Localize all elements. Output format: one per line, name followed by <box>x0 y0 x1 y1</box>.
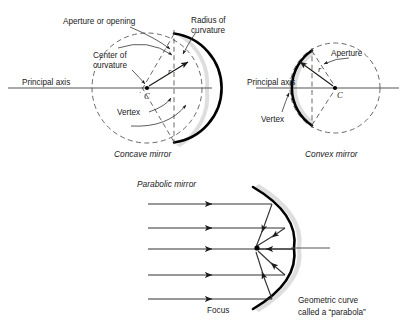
convex-mirror-panel: C r Aperture Vertex Principal axis Conve… <box>247 43 399 159</box>
convex-aperture-label: Aperture <box>331 49 363 58</box>
concave-radius-symbol: r <box>168 66 172 76</box>
reflected-ray-5 <box>262 272 272 299</box>
focus-point-dot <box>254 245 259 250</box>
concave-vertex-label: Vertex <box>117 108 140 117</box>
concave-center-label-line2: curvature <box>93 61 128 70</box>
concave-aperture-label: Aperture or opening <box>63 17 136 26</box>
concave-principal-axis-label: Principal axis <box>22 78 70 87</box>
reflected-ray-2 <box>272 228 285 237</box>
concave-center-leader <box>132 70 145 84</box>
mirror-diagram: C r Aperture or opening Center of curvat… <box>0 0 405 336</box>
concave-mirror-shadow <box>176 33 209 147</box>
diagram-canvas: C r Aperture or opening Center of curvat… <box>0 0 405 336</box>
concave-chord-upper <box>140 34 174 93</box>
concave-center-label-line1: Center of <box>93 51 127 60</box>
parabola-note-line1: Geometric curve <box>298 296 359 305</box>
convex-chord-lower <box>312 91 334 125</box>
parabolic-mirror-panel: Parabolic mirror Focus Geometric curve c… <box>137 179 366 317</box>
convex-vertex-leader <box>282 93 289 112</box>
concave-mirror-panel: C r Aperture or opening Center of curvat… <box>8 16 226 159</box>
parabolic-caption: Parabolic mirror <box>137 179 197 189</box>
convex-radius-arrow <box>300 62 333 86</box>
reflected-ray-4 <box>271 263 285 275</box>
concave-center-dot <box>145 86 149 90</box>
reflected-ray-4-tail <box>258 251 272 264</box>
focus-label: Focus <box>207 306 229 315</box>
concave-caption: Concave mirror <box>114 149 172 159</box>
convex-aperture-leader <box>324 58 349 64</box>
convex-center-label: C <box>337 90 343 100</box>
convex-vertex-label: Vertex <box>261 115 284 124</box>
parabola-note-line2: called a “parabola” <box>298 308 366 317</box>
concave-radius-label-line1: Radius of <box>191 16 226 25</box>
concave-radius-label-line2: curvature <box>191 26 226 35</box>
convex-principal-axis-label: Principal axis <box>247 78 295 87</box>
convex-caption: Convex mirror <box>305 149 359 159</box>
